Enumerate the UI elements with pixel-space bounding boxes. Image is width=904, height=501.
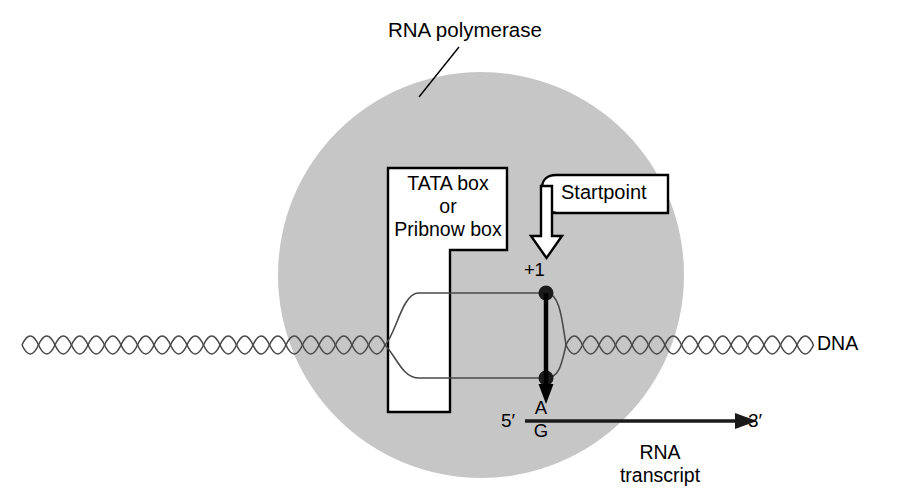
- initiating-base-adenine: A: [528, 396, 554, 419]
- transcription-initiation-diagram: RNA polymerase TATA box or Pribnow box S…: [0, 0, 904, 501]
- promoter-box-label-line3: Pribnow box: [392, 218, 504, 241]
- plus-one-position-label: +1: [524, 259, 545, 281]
- rna-polymerase-body: [278, 72, 684, 478]
- initiating-base-guanine: G: [528, 419, 554, 442]
- five-prime-end-label: 5′: [501, 410, 515, 432]
- dna-label: DNA: [817, 332, 858, 355]
- initiating-purine-label: A G: [528, 396, 554, 442]
- three-prime-end-label: 3′: [748, 410, 762, 432]
- rna-polymerase-label: RNA polymerase: [388, 18, 542, 42]
- promoter-box-label: TATA box or Pribnow box: [392, 172, 504, 241]
- rna-transcript-label: RNA transcript: [600, 441, 720, 487]
- rna-transcript-label-line2: transcript: [600, 464, 720, 487]
- diagram-canvas: [0, 0, 904, 501]
- promoter-box-label-line1: TATA box: [392, 172, 504, 195]
- startpoint-label: Startpoint: [561, 181, 647, 205]
- promoter-box-label-line2: or: [392, 195, 504, 218]
- rna-transcript-label-line1: RNA: [600, 441, 720, 464]
